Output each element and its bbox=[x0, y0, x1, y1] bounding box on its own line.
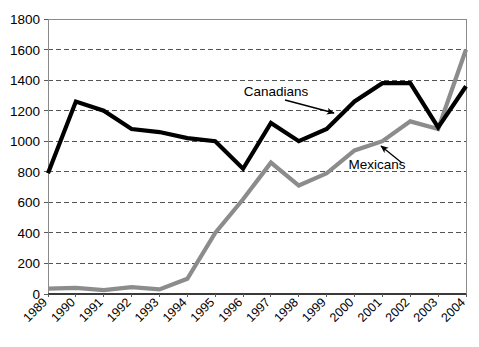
y-tick-label: 600 bbox=[17, 195, 40, 210]
y-tick-label: 200 bbox=[17, 256, 40, 271]
x-tick-label: 1993 bbox=[132, 295, 162, 325]
x-tick-label: 2000 bbox=[327, 295, 357, 325]
y-tick-label: 1800 bbox=[10, 12, 40, 27]
x-tick-label: 1997 bbox=[243, 295, 273, 325]
x-tick-label: 2002 bbox=[383, 295, 413, 325]
x-tick-label: 1994 bbox=[160, 295, 190, 325]
y-axis-tick-labels: 180016001400120010008006004002000 bbox=[10, 12, 48, 302]
y-tick-label: 1000 bbox=[10, 134, 40, 149]
x-tick-label: 1996 bbox=[216, 295, 246, 325]
x-tick-label: 1991 bbox=[76, 295, 106, 325]
annotation-label-canadians: Canadians bbox=[244, 84, 309, 99]
x-tick-label: 2003 bbox=[411, 295, 441, 325]
x-tick-label: 1999 bbox=[299, 295, 329, 325]
x-tick-label: 1998 bbox=[271, 295, 301, 325]
y-tick-label: 1400 bbox=[10, 73, 40, 88]
gridlines bbox=[48, 19, 466, 263]
y-tick-label: 1600 bbox=[10, 43, 40, 58]
y-tick-label: 400 bbox=[17, 226, 40, 241]
x-tick-label: 1990 bbox=[48, 295, 78, 325]
x-tick-label: 2001 bbox=[355, 295, 385, 325]
x-tick-label: 1995 bbox=[188, 295, 218, 325]
x-axis-tick-labels: 1989199019911992199319941995199619971998… bbox=[21, 294, 469, 325]
chart-canvas: 180016001400120010008006004002000 198919… bbox=[0, 0, 479, 347]
x-tick-label: 1989 bbox=[21, 295, 51, 325]
y-tick-label: 1200 bbox=[10, 104, 40, 119]
line-chart: 180016001400120010008006004002000 198919… bbox=[0, 0, 479, 347]
y-tick-label: 800 bbox=[17, 165, 40, 180]
x-tick-label: 2004 bbox=[439, 295, 469, 325]
x-tick-label: 1992 bbox=[104, 295, 134, 325]
